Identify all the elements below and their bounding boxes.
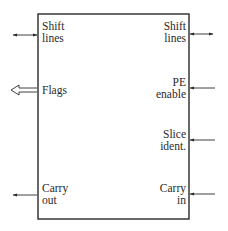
carry-in-label: Carry in: [160, 182, 186, 206]
label-line: out: [42, 194, 68, 206]
label-line: ident.: [160, 140, 186, 152]
slice-ident-label: Slice ident.: [160, 128, 186, 152]
label-line: enable: [156, 88, 186, 100]
block-diagram: [0, 0, 228, 231]
label-line: Slice: [160, 128, 186, 140]
label-line: Shift: [42, 20, 64, 32]
label-line: lines: [42, 32, 64, 44]
label-line: Flags: [42, 84, 67, 96]
label-line: PE: [156, 76, 186, 88]
flags-label: Flags: [42, 84, 67, 96]
shift-lines-left-label: Shift lines: [42, 20, 64, 44]
label-line: Carry: [160, 182, 186, 194]
flags-bus-arrow-icon: [11, 85, 37, 95]
label-line: in: [160, 194, 186, 206]
shift-lines-right-label: Shift lines: [164, 20, 186, 44]
label-line: Shift: [164, 20, 186, 32]
label-line: Carry: [42, 182, 68, 194]
pe-enable-label: PE enable: [156, 76, 186, 100]
label-line: lines: [164, 32, 186, 44]
carry-out-label: Carry out: [42, 182, 68, 206]
